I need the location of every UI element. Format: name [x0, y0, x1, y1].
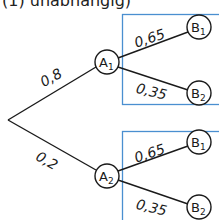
node-a2: A2	[95, 164, 119, 188]
prob-label-a1: 0,8	[37, 65, 64, 90]
prob-label-a1-b2: 0,35	[134, 80, 168, 103]
node-a2-b2: B2	[187, 195, 211, 219]
prob-label-a2-b2: 0,35	[134, 196, 168, 219]
node-a1-b2: B2	[187, 81, 211, 105]
probability-tree-diagram: 0,8 0,2 0,65 0,35 0,65 0,35 A1 A2 B1 B2 …	[0, 0, 219, 220]
node-a2-b1: B1	[187, 130, 211, 154]
prob-label-a2-b1: 0,65	[132, 141, 167, 166]
node-a1-b1: B1	[187, 15, 211, 39]
node-a1: A1	[95, 50, 119, 74]
prob-label-a2: 0,2	[33, 148, 60, 173]
